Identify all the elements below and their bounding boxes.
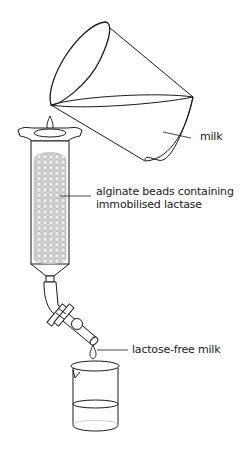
beaker-icon [71, 361, 119, 431]
column-bottom-icon [31, 264, 69, 282]
alginate-beads-icon [34, 153, 66, 265]
stopcock-tap-icon [44, 282, 99, 346]
column-top-icon [18, 128, 82, 142]
jug-icon [50, 22, 193, 161]
lactose-free-milk-diagram [0, 0, 245, 453]
drop-bottom-icon [90, 345, 96, 359]
alginate-beads-label-line1: alginate beads containing [96, 185, 234, 198]
milk-label: milk [200, 130, 222, 143]
lactose-free-milk-label: lactose-free milk [132, 343, 220, 356]
alginate-beads-label-line2: immobilised lactase [96, 198, 234, 211]
alginate-beads-label: alginate beads containing immobilised la… [96, 185, 234, 211]
